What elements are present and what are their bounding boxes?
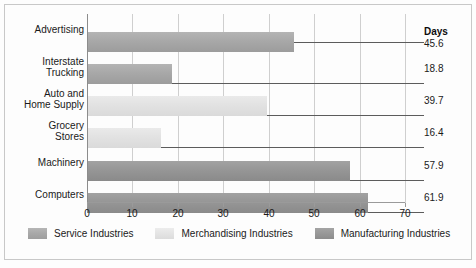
value-label-advertising: 45.6: [424, 38, 443, 49]
xtick-label-60: 60: [345, 208, 375, 219]
tick-mark-50: [314, 203, 315, 207]
bar-interstate-trucking: [87, 64, 172, 84]
tick-mark-10: [132, 203, 133, 207]
y-label-line: Grocery: [2, 120, 84, 131]
y-label-interstate-trucking: Interstate Trucking: [2, 56, 84, 78]
value-label-computers: 61.9: [424, 192, 443, 203]
y-label-grocery-stores: Grocery Stores: [2, 120, 84, 142]
xtick-label-20: 20: [163, 208, 193, 219]
value-label-grocery-stores: 16.4: [424, 127, 443, 138]
leader-line-machinery: [350, 180, 424, 181]
legend-item-manufacturing-industries[interactable]: Manufacturing Industries: [315, 228, 451, 239]
legend-label-manufacturing-industries: Manufacturing Industries: [341, 228, 451, 239]
legend-swatch-manufacturing-icon: [315, 228, 334, 239]
y-label-line: Advertising: [2, 24, 84, 35]
y-label-machinery: Machinery: [2, 157, 84, 168]
bar-machinery: [87, 161, 350, 181]
y-label-line: Computers: [2, 189, 84, 200]
chart-legend: Service Industries Merchandising Industr…: [28, 228, 472, 239]
y-label-line: Auto and: [2, 88, 84, 99]
bar-auto-and-home-supply: [87, 96, 267, 116]
y-label-line: Machinery: [2, 157, 84, 168]
xtick-label-10: 10: [117, 208, 147, 219]
tick-mark-70: [405, 203, 406, 207]
value-label-auto-and-home-supply: 39.7: [424, 95, 443, 106]
value-label-machinery: 57.9: [424, 160, 443, 171]
tick-mark-20: [178, 203, 179, 207]
tick-mark-60: [360, 203, 361, 207]
tick-mark-0: [87, 203, 88, 207]
legend-item-merchandising-industries[interactable]: Merchandising Industries: [155, 228, 292, 239]
legend-label-merchandising-industries: Merchandising Industries: [181, 228, 292, 239]
y-label-line: Trucking: [2, 67, 84, 78]
y-label-line: Home Supply: [2, 99, 84, 110]
xtick-label-70: 70: [390, 208, 420, 219]
bar-advertising: [87, 32, 294, 52]
leader-line-interstate-trucking: [172, 83, 424, 84]
days-column-header: Days: [424, 26, 448, 37]
legend-item-service-industries[interactable]: Service Industries: [28, 228, 133, 239]
tick-mark-30: [223, 203, 224, 207]
y-label-line: Stores: [2, 131, 84, 142]
bar-chart-figure: Advertising Interstate Trucking Auto and…: [0, 0, 476, 268]
legend-swatch-service-icon: [28, 228, 47, 239]
leader-line-auto-and-home-supply: [267, 115, 424, 116]
xtick-label-40: 40: [254, 208, 284, 219]
plot-area: [87, 14, 405, 203]
leader-line-advertising: [294, 42, 424, 43]
leader-line-grocery-stores: [161, 147, 424, 148]
y-label-auto-and-home-supply: Auto and Home Supply: [2, 88, 84, 110]
xtick-label-0: 0: [72, 208, 102, 219]
x-axis-line: [87, 202, 405, 203]
xtick-label-30: 30: [208, 208, 238, 219]
legend-swatch-merchandising-icon: [155, 228, 174, 239]
xtick-label-50: 50: [299, 208, 329, 219]
tick-mark-40: [269, 203, 270, 207]
y-label-line: Interstate: [2, 56, 84, 67]
bar-grocery-stores: [87, 128, 161, 148]
value-label-interstate-trucking: 18.8: [424, 63, 443, 74]
y-axis-line: [87, 14, 88, 203]
y-label-computers: Computers: [2, 189, 84, 200]
y-label-advertising: Advertising: [2, 24, 84, 35]
legend-label-service-industries: Service Industries: [54, 228, 133, 239]
